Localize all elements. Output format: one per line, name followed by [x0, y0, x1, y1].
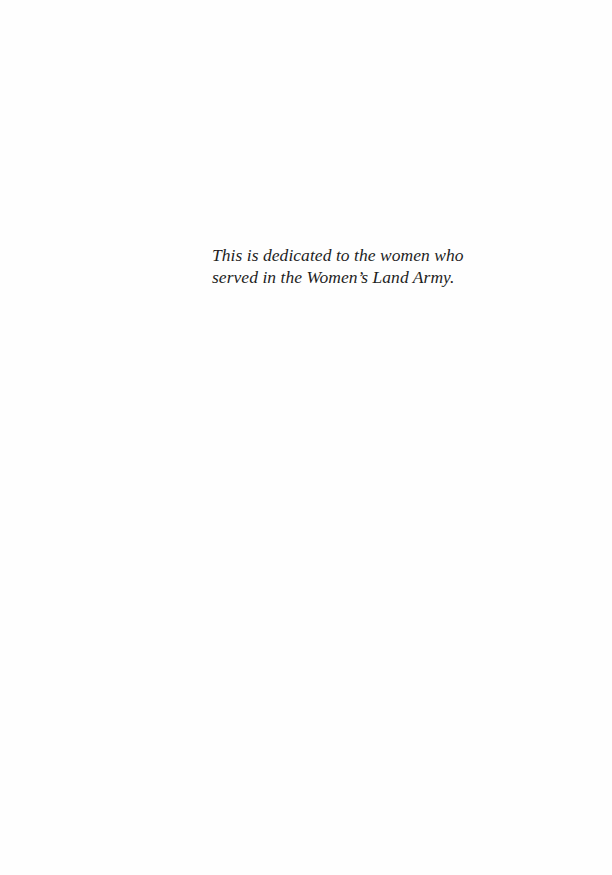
book-page: This is dedicated to the women who serve… [0, 0, 612, 875]
dedication-text: This is dedicated to the women who serve… [212, 244, 412, 288]
dedication-line-1: This is dedicated to the women who [212, 244, 412, 266]
dedication-line-2: served in the Women’s Land Army. [212, 266, 412, 288]
